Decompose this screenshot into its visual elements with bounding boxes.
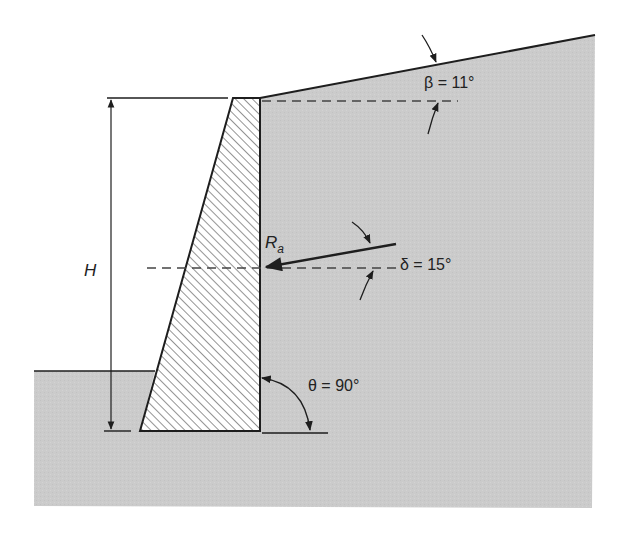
- delta-label: δ = 15°: [400, 256, 451, 273]
- diagram-canvas: H β = 11° Ra δ = 15° θ = 90°: [0, 0, 625, 544]
- height-label: H: [84, 261, 97, 280]
- beta-label: β = 11°: [424, 74, 474, 91]
- retaining-wall: [140, 98, 260, 431]
- soil-region: [34, 35, 595, 508]
- theta-label: θ = 90°: [308, 377, 359, 394]
- retaining-wall-diagram: H β = 11° Ra δ = 15° θ = 90°: [0, 0, 625, 544]
- beta-upper-arrow-icon: [422, 35, 436, 62]
